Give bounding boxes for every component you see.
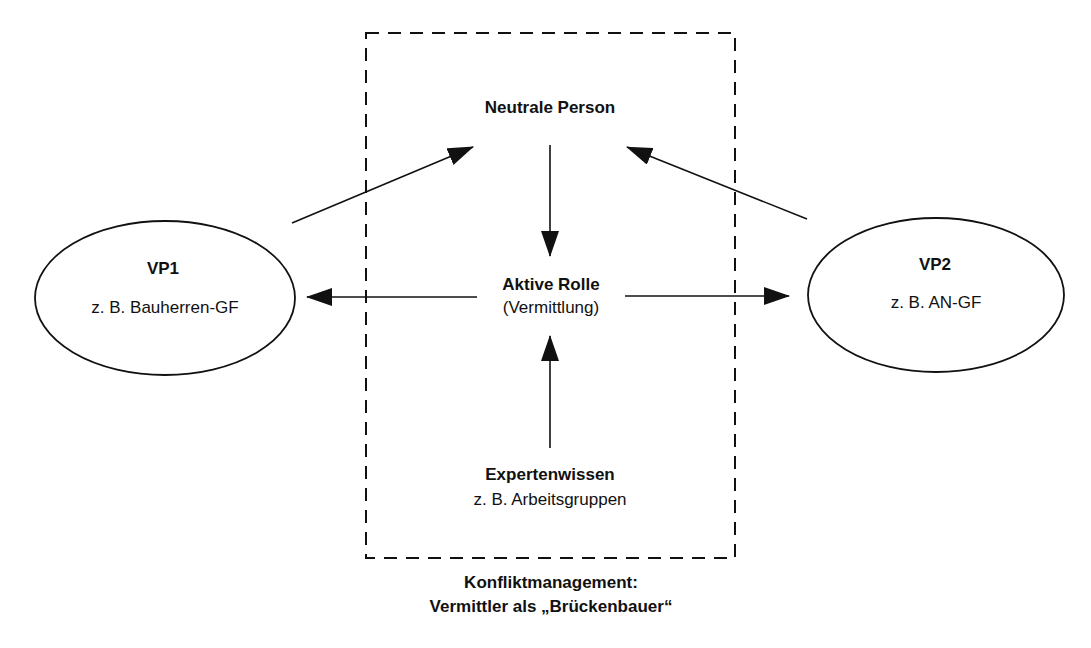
vp1-title: VP1 <box>147 259 179 279</box>
arrow-vp1-to-neutral <box>292 147 473 223</box>
active-role-subtitle: (Vermittlung) <box>503 298 599 318</box>
neutral-person-label: Neutrale Person <box>485 98 615 118</box>
caption-line-2: Vermittler als „Brückenbauer“ <box>430 597 673 617</box>
expert-subtitle: z. B. Arbeitsgruppen <box>473 490 626 510</box>
vp2-title: VP2 <box>919 255 951 275</box>
active-role-title: Aktive Rolle <box>502 275 599 295</box>
vp1-subtitle: z. B. Bauherren-GF <box>91 298 238 318</box>
vp2-subtitle: z. B. AN-GF <box>891 293 982 313</box>
caption-line-1: Konfliktmanagement: <box>464 573 638 593</box>
arrow-vp2-to-neutral <box>627 147 807 219</box>
expert-title: Expertenwissen <box>485 465 614 485</box>
